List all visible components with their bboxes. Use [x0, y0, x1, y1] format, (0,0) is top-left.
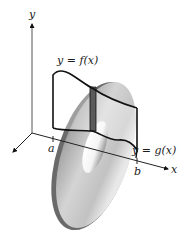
- representative-strip: [90, 87, 96, 131]
- tick-label-b: b: [134, 165, 141, 178]
- z-axis: [13, 133, 32, 152]
- washer-diagram: y x a b y = f(x) y = g(x): [0, 0, 189, 234]
- lower-curve-label: y = g(x): [131, 144, 176, 157]
- y-axis-label: y: [28, 8, 36, 21]
- tick-label-a: a: [48, 142, 55, 155]
- x-axis-label: x: [171, 163, 178, 176]
- upper-curve-label: y = f(x): [56, 54, 98, 67]
